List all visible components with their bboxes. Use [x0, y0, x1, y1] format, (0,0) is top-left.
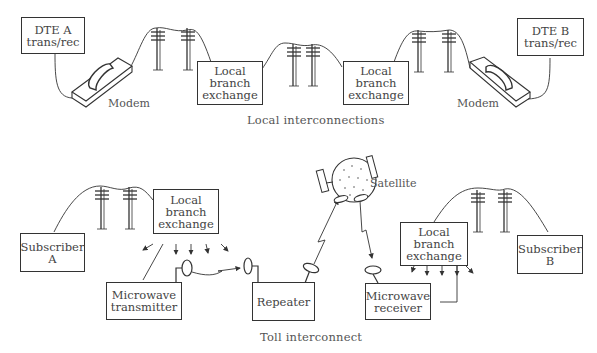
subscriber-b-sublabel: B [546, 255, 554, 267]
subscriber-a-label: Subscriber [21, 241, 85, 253]
dte-a-label: DTE A [34, 24, 71, 36]
wire-dte-a-modem [55, 53, 72, 98]
subscriber-a-sublabel: A [48, 253, 56, 265]
subscriber-b-label: Subscriber [518, 243, 582, 255]
satellite-icon [316, 156, 377, 204]
local-branch-exchange-top-right: Local branch exchange [343, 61, 409, 105]
modem-left-label: Modem [108, 97, 150, 110]
local-branch-exchange-bottom-left: Local branch exchange [153, 189, 219, 234]
lbe-right-outgoing-arrows [412, 266, 473, 275]
lbe-label-line3: exchange [202, 89, 258, 101]
repeater-label: Repeater [257, 296, 310, 308]
dte-b-box: DTE B trans/rec [517, 18, 584, 56]
lbe-left-outgoing-arrows [143, 244, 228, 254]
lbe-label-line1: Local [170, 194, 202, 206]
receiver-dish-icon [365, 266, 381, 283]
dte-a-sublabel: trans/rec [27, 36, 80, 48]
subscriber-a-box: Subscriber A [20, 233, 85, 272]
pole-pair-bottom-right [471, 190, 512, 232]
microwave-receiver-box: Microwave receiver [365, 283, 431, 320]
transmitter-dish-icon [176, 260, 192, 282]
lbe-label-line3: exchange [158, 218, 214, 230]
microwave-link-tx-repeater [192, 268, 240, 275]
repeater-box: Repeater [252, 282, 315, 321]
lbe-label-line2: branch [166, 206, 207, 218]
pole-pair-top-left [151, 28, 195, 70]
mw-receiver-label: Microwave [366, 290, 430, 302]
pole-pair-top-right [412, 30, 456, 72]
pole-pair-top-middle [287, 44, 320, 86]
wire-lbe-mw-receiver [440, 266, 457, 302]
pole-pair-bottom-left [95, 187, 137, 229]
repeater-dish-out-icon [302, 262, 320, 283]
microwave-transmitter-box: Microwave transmitter [106, 282, 182, 320]
modem-right-label: Modem [457, 97, 499, 110]
local-branch-exchange-top-left: Local branch exchange [197, 61, 263, 105]
lbe-label-line3: exchange [406, 250, 462, 262]
wire-modem-dte-b [528, 58, 550, 99]
dte-a-box: DTE A trans/rec [21, 17, 85, 54]
downlink-satellite-receiver [360, 201, 372, 258]
caption-local-interconnections: Local interconnections [247, 113, 385, 127]
wire-subscriber-a-lbe [54, 186, 153, 232]
subscriber-b-box: Subscriber B [517, 235, 583, 274]
mw-transmitter-sublabel: transmitter [111, 301, 177, 313]
dte-b-sublabel: trans/rec [524, 37, 577, 49]
local-branch-exchange-bottom-right: Local branch exchange [400, 222, 468, 266]
uplink-repeater-satellite [314, 200, 338, 264]
satellite-label: Satellite [370, 177, 417, 190]
lbe-label-line3: exchange [348, 89, 404, 101]
wire-lbe-lbe [262, 43, 342, 69]
mw-receiver-sublabel: receiver [374, 302, 422, 314]
wire-lbe-mw-transmitter [143, 244, 163, 280]
repeater-dish-in-icon [244, 258, 258, 282]
caption-toll-interconnect: Toll interconnect [260, 330, 362, 344]
